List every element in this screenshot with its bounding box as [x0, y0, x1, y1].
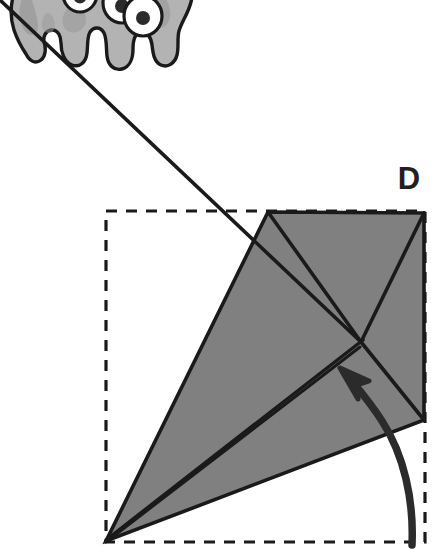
origami-figure-page: D [0, 0, 446, 557]
step-label-d: D [392, 161, 426, 197]
label-layer: D [0, 0, 446, 557]
